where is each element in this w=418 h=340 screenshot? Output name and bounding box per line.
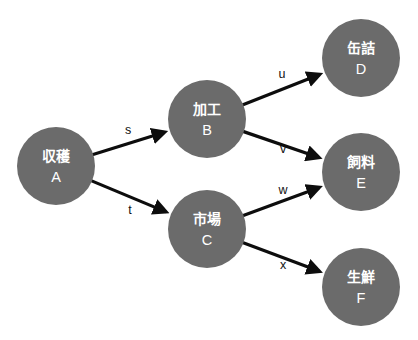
node-circle-c <box>168 190 246 268</box>
node-label-id-f: F <box>357 290 366 306</box>
node-e[interactable]: 飼料E <box>322 133 400 211</box>
node-c[interactable]: 市場C <box>168 190 246 268</box>
node-label-id-a: A <box>51 169 61 185</box>
node-label-jp-f: 生鮮 <box>347 269 375 285</box>
node-label-jp-b: 加工 <box>192 101 221 117</box>
diagram-canvas: stuvwx 収穫A加工B市場C缶詰D飼料E生鮮F <box>0 0 418 340</box>
node-d[interactable]: 缶詰D <box>322 19 400 97</box>
node-f[interactable]: 生鮮F <box>322 248 400 326</box>
edge-label-v: v <box>280 142 287 156</box>
edge-label-s: s <box>125 123 131 137</box>
node-label-id-b: B <box>202 122 212 138</box>
node-label-jp-a: 収穫 <box>42 148 71 164</box>
node-label-id-e: E <box>356 175 366 191</box>
edge-label-w: w <box>277 183 288 197</box>
node-circle-b <box>168 80 246 158</box>
graph-svg: stuvwx 収穫A加工B市場C缶詰D飼料E生鮮F <box>0 0 418 340</box>
node-label-jp-e: 飼料 <box>346 154 375 170</box>
node-circle-d <box>322 19 400 97</box>
edge-label-t: t <box>128 203 132 217</box>
nodes-layer: 収穫A加工B市場C缶詰D飼料E生鮮F <box>17 19 400 326</box>
node-a[interactable]: 収穫A <box>17 127 95 205</box>
edge-label-u: u <box>279 67 286 81</box>
node-circle-e <box>322 133 400 211</box>
node-circle-a <box>17 127 95 205</box>
node-label-jp-c: 市場 <box>193 211 221 227</box>
edge-label-x: x <box>280 258 287 272</box>
node-label-id-d: D <box>356 61 366 77</box>
node-label-jp-d: 缶詰 <box>347 40 375 56</box>
node-b[interactable]: 加工B <box>168 80 246 158</box>
node-label-id-c: C <box>202 232 212 248</box>
node-circle-f <box>322 248 400 326</box>
